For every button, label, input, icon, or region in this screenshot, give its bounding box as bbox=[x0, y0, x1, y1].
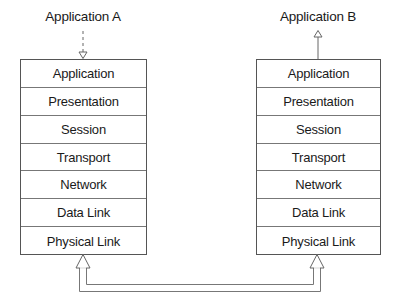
connector-arrows bbox=[0, 0, 399, 303]
solid-up-arrow-icon bbox=[314, 31, 322, 60]
dashed-down-arrow-icon bbox=[79, 31, 87, 59]
physical-link-connector-icon bbox=[76, 255, 324, 292]
